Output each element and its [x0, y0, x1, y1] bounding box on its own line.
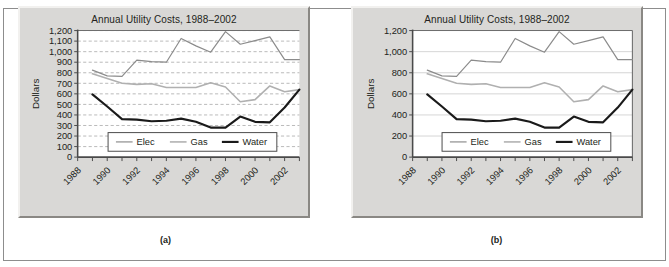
svg-text:1990: 1990	[91, 165, 113, 187]
svg-text:1,200: 1,200	[384, 26, 407, 36]
svg-text:1998: 1998	[543, 165, 565, 187]
svg-text:1994: 1994	[484, 165, 506, 187]
svg-text:Water: Water	[242, 137, 267, 147]
svg-text:800: 800	[392, 68, 408, 78]
svg-text:2000: 2000	[239, 165, 261, 187]
svg-text:1988: 1988	[61, 165, 83, 187]
chart-cell-a: Annual Utility Costs, 1988–2002 01002003…	[0, 0, 331, 253]
svg-text:2002: 2002	[601, 165, 623, 187]
chart-cell-b: Annual Utility Costs, 1988–2002 02004006…	[331, 0, 662, 253]
chart-a: Annual Utility Costs, 1988–2002 01002003…	[18, 6, 310, 218]
svg-text:400: 400	[57, 110, 73, 120]
svg-text:2002: 2002	[268, 165, 290, 187]
svg-text:0: 0	[67, 152, 72, 162]
svg-text:800: 800	[57, 68, 73, 78]
svg-text:400: 400	[392, 110, 408, 120]
svg-text:2000: 2000	[572, 165, 594, 187]
svg-text:1,200: 1,200	[49, 26, 72, 36]
svg-text:Dollars: Dollars	[30, 79, 41, 110]
svg-text:1994: 1994	[150, 165, 172, 187]
svg-text:Gas: Gas	[190, 137, 207, 147]
charts-row: Annual Utility Costs, 1988–2002 01002003…	[0, 0, 663, 253]
svg-text:600: 600	[57, 89, 73, 99]
svg-text:1998: 1998	[209, 165, 231, 187]
svg-text:1996: 1996	[180, 165, 202, 187]
caption-a: (a)	[0, 235, 331, 245]
svg-text:200: 200	[392, 131, 408, 141]
svg-text:500: 500	[57, 100, 73, 110]
svg-text:1992: 1992	[120, 165, 142, 187]
svg-text:1996: 1996	[513, 165, 535, 187]
svg-text:600: 600	[392, 89, 408, 99]
svg-text:900: 900	[57, 57, 73, 67]
svg-text:1,100: 1,100	[49, 36, 72, 46]
svg-text:Gas: Gas	[524, 137, 541, 147]
svg-text:1992: 1992	[455, 165, 477, 187]
svg-text:Elec: Elec	[137, 137, 155, 147]
svg-text:200: 200	[57, 131, 73, 141]
svg-text:1,000: 1,000	[49, 47, 72, 57]
svg-text:300: 300	[57, 121, 73, 131]
svg-text:100: 100	[57, 142, 73, 152]
svg-text:1988: 1988	[396, 165, 418, 187]
svg-text:700: 700	[57, 79, 73, 89]
figure-container: Annual Utility Costs, 1988–2002 01002003…	[0, 0, 669, 267]
svg-text:Dollars: Dollars	[365, 79, 376, 110]
svg-text:1,000: 1,000	[384, 47, 407, 57]
svg-text:0: 0	[402, 152, 407, 162]
caption-b: (b)	[331, 235, 662, 245]
svg-text:Water: Water	[576, 137, 601, 147]
svg-text:1990: 1990	[426, 165, 448, 187]
chart-b: Annual Utility Costs, 1988–2002 02004006…	[351, 6, 643, 218]
chart-a-plot: 01002003004005006007008009001,0001,1001,…	[20, 8, 308, 216]
chart-b-plot: 02004006008001,0001,200Dollars1988199019…	[353, 8, 641, 216]
svg-text:Elec: Elec	[471, 137, 489, 147]
